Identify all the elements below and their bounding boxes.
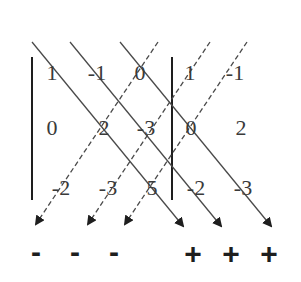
matrix-entry-r3c1: -2: [52, 175, 70, 200]
positive-sign-3: +: [260, 237, 278, 270]
matrix-entry-r1c1: 1: [47, 60, 58, 85]
matrix-entry-r3c3: 5: [147, 175, 158, 200]
matrix-entry-r1c2: -1: [88, 60, 106, 85]
positive-sign-2: +: [222, 237, 240, 270]
repeat-entry-r2c1: 0: [186, 115, 197, 140]
negative-sign-2: -: [70, 235, 80, 268]
repeat-entry-r3c1: -2: [187, 175, 205, 200]
matrix-entry-r1c3: 0: [135, 60, 146, 85]
positive-sign-1: +: [184, 237, 202, 270]
sarrus-diagram: 1 -1 0 0 2 -3 -2 -3 5 1 -1 0 2 -2 -3 - -…: [0, 0, 301, 282]
repeat-entry-r1c2: -1: [226, 60, 244, 85]
matrix-entry-r3c2: -3: [99, 175, 117, 200]
repeat-entry-r1c1: 1: [185, 60, 196, 85]
matrix-entry-r2c1: 0: [47, 115, 58, 140]
repeat-entry-r3c2: -3: [234, 175, 252, 200]
negative-sign-1: -: [31, 235, 41, 268]
repeat-entry-r2c2: 2: [236, 115, 247, 140]
negative-sign-3: -: [109, 235, 119, 268]
matrix-entry-r2c2: 2: [99, 115, 110, 140]
matrix-entry-r2c3: -3: [137, 115, 155, 140]
